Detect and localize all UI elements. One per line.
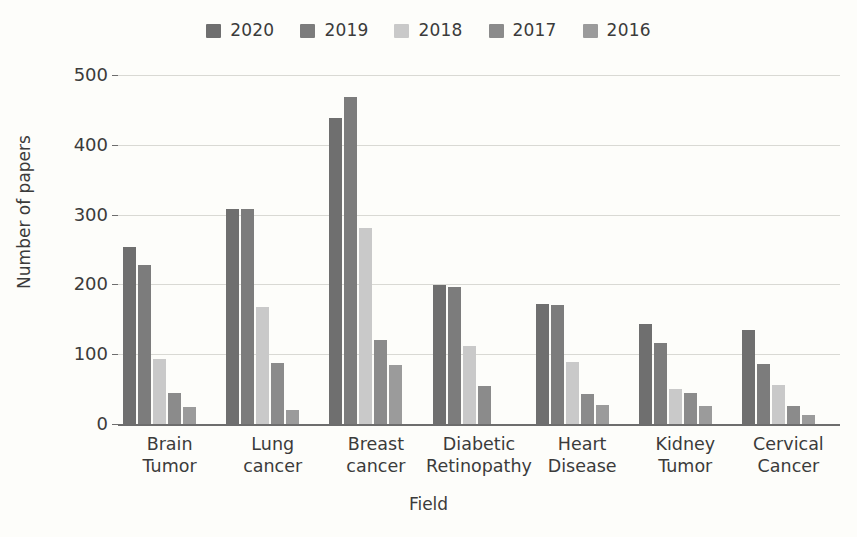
- y-tick-label-500: 500: [52, 66, 108, 84]
- y-axis-title: Number of papers: [6, 0, 42, 424]
- bar-chart-figure: 20202019201820172016 Number of papers 01…: [0, 0, 857, 537]
- legend-label-2016: 2016: [607, 22, 651, 39]
- bar-group-cervical-cancer: [742, 75, 815, 424]
- bar-2016-lung-cancer: [286, 410, 299, 424]
- category-label-line: Cancer: [723, 456, 854, 478]
- x-axis-category-labels: BrainTumorLungcancerBreastcancerDiabetic…: [118, 434, 840, 490]
- bar-2017-lung-cancer: [271, 363, 284, 424]
- y-tick-label-100: 100: [52, 345, 108, 363]
- bar-2019-cervical-cancer: [757, 364, 770, 424]
- bar-2019-heart-disease: [551, 305, 564, 424]
- bar-2019-brain-tumor: [138, 265, 151, 424]
- bar-2018-diabetic-retinopathy: [463, 346, 476, 424]
- legend-label-2018: 2018: [418, 22, 462, 39]
- bar-group-heart-disease: [536, 75, 609, 424]
- bar-2020-brain-tumor: [123, 247, 136, 424]
- bar-2016-heart-disease: [596, 405, 609, 424]
- legend-label-2020: 2020: [230, 22, 274, 39]
- legend-entry-2018: 2018: [394, 22, 462, 39]
- bars-layer: [118, 75, 840, 424]
- x-axis-line: [118, 424, 840, 426]
- bar-2017-heart-disease: [581, 394, 594, 424]
- bar-group-lung-cancer: [226, 75, 299, 424]
- bar-2017-breast-cancer: [374, 340, 387, 424]
- legend-label-2017: 2017: [513, 22, 557, 39]
- legend-entry-2019: 2019: [300, 22, 368, 39]
- bar-group-diabetic-retinopathy: [433, 75, 506, 424]
- y-axis-title-text: Number of papers: [14, 135, 34, 289]
- legend-swatch-icon-2019: [300, 24, 315, 38]
- bar-group-breast-cancer: [329, 75, 402, 424]
- bar-2020-heart-disease: [536, 304, 549, 424]
- bar-group-kidney-tumor: [639, 75, 712, 424]
- bar-2018-brain-tumor: [153, 359, 166, 424]
- y-tick-label-400: 400: [52, 136, 108, 154]
- bar-2019-diabetic-retinopathy: [448, 287, 461, 424]
- y-tick-label-200: 200: [52, 275, 108, 293]
- bar-2018-breast-cancer: [359, 228, 372, 424]
- bar-2020-kidney-tumor: [639, 324, 652, 424]
- bar-2018-lung-cancer: [256, 307, 269, 424]
- category-label-line: Cervical: [723, 434, 854, 456]
- bar-2017-diabetic-retinopathy: [478, 386, 491, 424]
- bar-2016-breast-cancer: [389, 365, 402, 424]
- bar-2020-lung-cancer: [226, 209, 239, 424]
- bar-2020-cervical-cancer: [742, 330, 755, 424]
- bar-2017-brain-tumor: [168, 393, 181, 424]
- bar-2018-cervical-cancer: [772, 385, 785, 424]
- bar-2017-kidney-tumor: [684, 393, 697, 424]
- bar-2020-diabetic-retinopathy: [433, 285, 446, 424]
- legend-swatch-icon-2018: [394, 24, 409, 38]
- bar-2019-breast-cancer: [344, 97, 357, 424]
- y-tick-label-0: 0: [52, 415, 108, 433]
- x-axis-title: Field: [0, 494, 857, 514]
- legend-entry-2017: 2017: [489, 22, 557, 39]
- chart-legend: 20202019201820172016: [0, 22, 857, 39]
- bar-2018-heart-disease: [566, 362, 579, 424]
- bar-2019-lung-cancer: [241, 209, 254, 424]
- legend-label-2019: 2019: [324, 22, 368, 39]
- category-label-cervical-cancer: CervicalCancer: [723, 434, 854, 477]
- y-tick-label-300: 300: [52, 206, 108, 224]
- bar-2020-breast-cancer: [329, 118, 342, 424]
- bar-2019-kidney-tumor: [654, 343, 667, 424]
- bar-2016-kidney-tumor: [699, 406, 712, 424]
- legend-swatch-icon-2017: [489, 24, 504, 38]
- bar-2016-cervical-cancer: [802, 415, 815, 424]
- bar-2016-brain-tumor: [183, 407, 196, 424]
- legend-entry-2016: 2016: [583, 22, 651, 39]
- legend-swatch-icon-2016: [583, 24, 598, 38]
- legend-entry-2020: 2020: [206, 22, 274, 39]
- bar-2018-kidney-tumor: [669, 389, 682, 424]
- legend-swatch-icon-2020: [206, 24, 221, 38]
- bar-group-brain-tumor: [123, 75, 196, 424]
- bar-2017-cervical-cancer: [787, 406, 800, 424]
